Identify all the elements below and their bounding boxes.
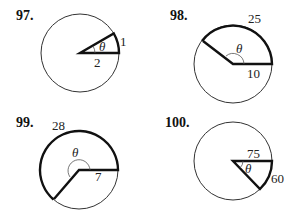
problem-98: 98. θ 10 25 [170,8,272,103]
problem-number: 100. [165,115,190,130]
theta-label: θ [99,39,106,54]
theta-label: θ [236,41,243,56]
radius-label: 75 [247,146,260,161]
problem-100: 100. θ 75 60 [165,115,284,200]
angle-arc [68,160,90,177]
theta-label: θ [72,145,79,160]
theta-label: θ [245,161,252,176]
sector-diagrams: 97. θ 2 1 98. θ 10 25 99. θ 7 28 100. θ … [0,0,298,222]
problem-97: 97. θ 2 1 [16,8,127,92]
problem-99: 99. θ 7 28 [16,115,118,209]
sector [40,131,118,200]
arc-length-label: 28 [52,118,65,133]
problem-number: 98. [170,8,188,23]
sector [233,161,272,189]
problem-number: 99. [16,115,34,130]
arc-length-label: 25 [248,11,261,26]
problem-number: 97. [16,8,34,23]
radius-label: 2 [94,55,101,70]
arc-length-label: 1 [120,34,127,49]
arc-length-label: 60 [271,171,284,186]
radius-label: 7 [95,169,102,184]
radius-label: 10 [247,66,260,81]
